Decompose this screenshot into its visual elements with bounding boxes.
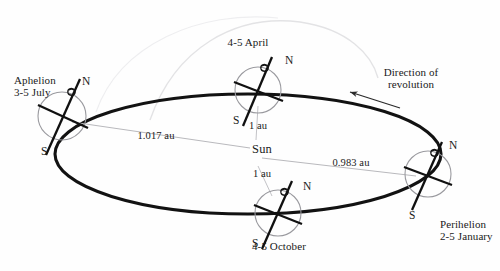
- aphelion-distance-label: 1.017 au: [138, 130, 175, 142]
- sun-label: Sun: [252, 142, 272, 156]
- april-label: 4-5 April: [228, 36, 269, 48]
- perihelion-label-line1: Perihelion: [440, 218, 493, 230]
- april-north-label: N: [285, 54, 293, 67]
- revolution-label-line1: Direction of: [384, 66, 439, 78]
- perihelion-north-label: N: [449, 139, 457, 152]
- earth-perihelion[interactable]: [404, 142, 452, 210]
- aphelion-south-label: S: [41, 145, 48, 158]
- earth-april-equator: [234, 82, 283, 101]
- perihelion-south-label: S: [409, 209, 416, 222]
- perihelion-label-line2: 2-5 January: [440, 230, 493, 242]
- aphelion-label: Aphelion 3-5 July: [14, 74, 56, 99]
- april-south-label: S: [233, 114, 240, 127]
- aphelion-label-line1: Aphelion: [14, 74, 56, 86]
- earth-perihelion-equator: [404, 167, 452, 185]
- october-distance-label: 1 au: [253, 168, 271, 180]
- revolution-label-line2: revolution: [384, 78, 439, 90]
- april-distance-label: 1 au: [249, 120, 267, 132]
- diagram-canvas: Aphelion 3-5 July N S 4-5 April N S 1 au…: [0, 0, 500, 271]
- revolution-label: Direction of revolution: [384, 66, 439, 91]
- aphelion-north-label: N: [82, 75, 90, 88]
- aphelion-label-line2: 3-5 July: [14, 86, 56, 98]
- earth-april[interactable]: [234, 57, 283, 126]
- october-north-label: N: [303, 180, 311, 193]
- perihelion-label: Perihelion 2-5 January: [440, 218, 493, 243]
- october-label: 4-5 October: [252, 240, 306, 252]
- october-south-label: S: [252, 237, 259, 250]
- earth-aphelion-equator: [38, 105, 88, 128]
- perihelion-distance-label: 0.983 au: [333, 157, 370, 169]
